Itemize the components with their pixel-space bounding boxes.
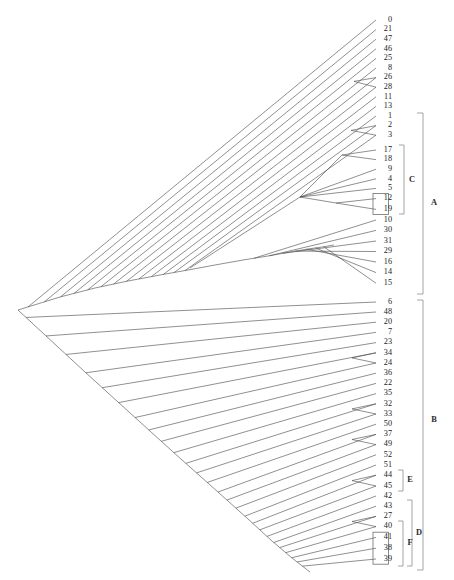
leaf-label-51: 51 — [384, 460, 392, 469]
leaf-label-31: 31 — [384, 236, 392, 245]
leaf-label-33: 33 — [384, 409, 392, 418]
leaf-label-38: 38 — [384, 543, 392, 552]
leaf-label-15: 15 — [384, 278, 392, 287]
leaf-label-49: 49 — [384, 439, 392, 448]
leaf-label-21: 21 — [384, 24, 392, 33]
leaf-label-37: 37 — [384, 429, 392, 438]
bracket-label-A: A — [431, 198, 437, 207]
leaf-label-20: 20 — [384, 317, 392, 326]
leaf-label-2: 2 — [388, 120, 392, 129]
bracket-label-D: D — [416, 528, 422, 537]
leaf-label-43: 43 — [384, 501, 392, 510]
leaf-label-52: 52 — [384, 450, 392, 459]
leaf-label-50: 50 — [384, 419, 392, 428]
leaf-label-48: 48 — [384, 307, 392, 316]
leaf-label-7: 7 — [388, 327, 392, 336]
leaf-label-25: 25 — [384, 53, 392, 62]
leaf-label-27: 27 — [384, 511, 392, 520]
leaf-label-32: 32 — [384, 399, 392, 408]
leaf-label-29: 29 — [384, 246, 392, 255]
leaf-label-13: 13 — [384, 101, 392, 110]
leaf-label-40: 40 — [384, 521, 392, 530]
leaf-label-17: 17 — [384, 145, 392, 154]
leaf-label-26: 26 — [384, 72, 392, 81]
bracket-label-E: E — [407, 475, 413, 484]
leaf-label-47: 47 — [384, 34, 392, 43]
leaf-label-34: 34 — [384, 348, 392, 357]
leaf-label-5: 5 — [388, 183, 392, 192]
leaf-label-6: 6 — [388, 297, 392, 306]
leaf-label-4: 4 — [388, 174, 392, 183]
leaf-label-22: 22 — [384, 378, 392, 387]
leaf-label-11: 11 — [384, 92, 392, 101]
leaf-label-44: 44 — [384, 470, 392, 479]
leaf-label-10: 10 — [384, 215, 392, 224]
leaf-label-19: 19 — [384, 204, 392, 213]
dendrogram-canvas: 0214746258262811131231718945121910303129… — [0, 0, 454, 580]
bracket-label-C: C — [409, 175, 415, 184]
leaf-label-28: 28 — [384, 82, 392, 91]
leaf-label-42: 42 — [384, 491, 392, 500]
leaf-label-3: 3 — [388, 130, 392, 139]
leaf-label-41: 41 — [384, 532, 392, 541]
leaf-label-35: 35 — [384, 388, 392, 397]
leaf-label-16: 16 — [384, 257, 392, 266]
leaf-label-23: 23 — [384, 337, 392, 346]
bracket-label-B: B — [431, 415, 437, 424]
leaf-label-1: 1 — [388, 111, 392, 120]
leaf-label-36: 36 — [384, 368, 392, 377]
leaf-label-39: 39 — [384, 554, 392, 563]
leaf-label-18: 18 — [384, 154, 392, 163]
leaf-label-9: 9 — [388, 164, 392, 173]
bracket-label-F: F — [407, 538, 412, 547]
leaf-label-14: 14 — [384, 267, 392, 276]
leaf-label-0: 0 — [388, 15, 392, 24]
leaf-label-46: 46 — [384, 44, 392, 53]
leaf-label-30: 30 — [384, 225, 392, 234]
leaf-label-24: 24 — [384, 358, 392, 367]
leaf-label-45: 45 — [384, 481, 392, 490]
leaf-label-12: 12 — [384, 193, 392, 202]
leaf-label-8: 8 — [388, 63, 392, 72]
dendrogram-figure: 0214746258262811131231718945121910303129… — [0, 0, 454, 580]
